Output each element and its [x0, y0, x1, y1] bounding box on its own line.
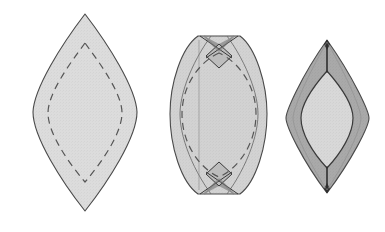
diagram-canvas: Leaf-shaped lens pattern construction di… [0, 0, 385, 232]
shape-flat-top-lens-with-dart-notches [170, 26, 267, 204]
leaf-pattern-diagram: Leaf-shaped lens pattern construction di… [0, 0, 385, 232]
